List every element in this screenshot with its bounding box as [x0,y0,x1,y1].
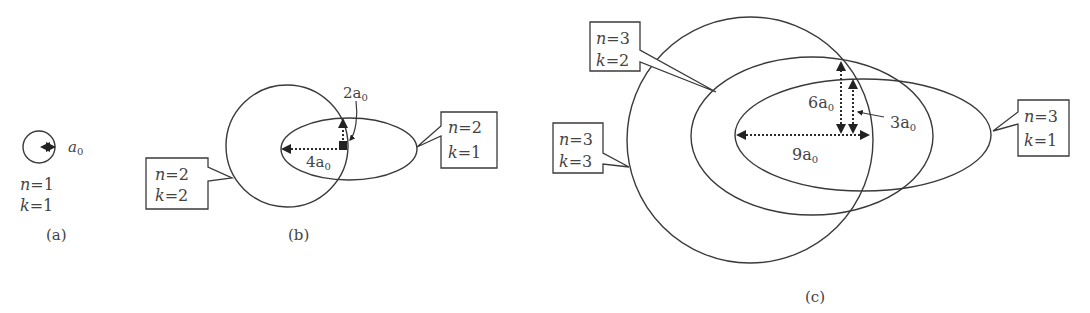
label-4a0: 4a0 [306,153,331,172]
orbit-n2-k1 [281,118,417,180]
caption-b: (b) [288,226,309,244]
caption-c: (c) [805,288,825,306]
panel-c: 6a0 3a0 9a0 n=3 k=2 n=3 k=3 n=3 k=1 (c) [553,17,1069,306]
label-9a0: 9a0 [792,145,818,165]
orbit-n2-k2 [226,85,348,207]
callout-n3-k1-k: k=1 [1024,131,1057,150]
callout-n2-k2-k: k=2 [155,186,188,205]
label-6a0: 6a0 [808,93,834,113]
callout-n2-k2-n: n=2 [155,165,189,184]
callout-n3-k2-n: n=3 [596,29,630,48]
callout-n3-k1-n: n=3 [1024,107,1058,126]
label-2a0: 2a0 [343,84,368,103]
panel-a: a0 n=1 k=1 (a) [20,131,83,244]
caption-a: (a) [46,226,67,244]
k-label: k=1 [20,196,53,215]
sommerfeld-orbits-figure: a0 n=1 k=1 (a) 2a0 4a0 n=2 k=2 n=2 k=1 (… [0,0,1090,313]
n-label: n=1 [20,175,54,194]
callout-n2-k1-k: k=1 [448,143,481,162]
callout-n2-k1-n: n=2 [448,118,482,137]
callout-n3-k3-n: n=3 [559,130,593,149]
radius-label: a0 [68,138,83,157]
panel-b: 2a0 4a0 n=2 k=2 n=2 k=1 (b) [146,84,497,244]
callout-n3-k2-k: k=2 [596,51,629,70]
orbit-n3-k3 [627,17,873,263]
label-3a0: 3a0 [890,113,916,133]
callout-n3-k3-k: k=3 [559,152,592,171]
